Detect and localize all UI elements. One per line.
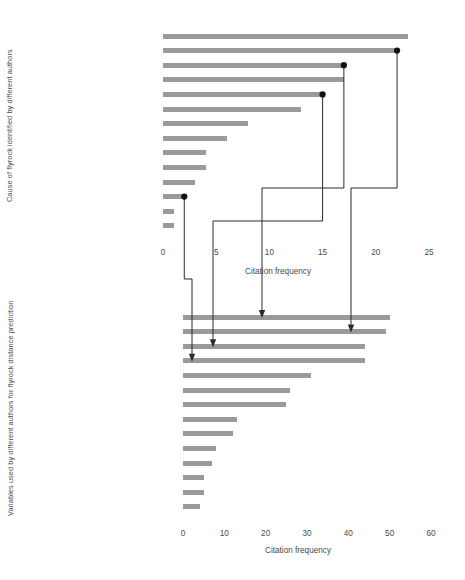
bar (183, 461, 212, 466)
x-tick-label: 5 (201, 249, 231, 257)
bar (163, 209, 174, 214)
bar (163, 63, 344, 68)
bar (183, 388, 290, 393)
x-tick-label: 25 (414, 249, 444, 257)
bar (183, 402, 286, 407)
bar (183, 373, 311, 378)
bar (183, 446, 216, 451)
x-tick-label: 30 (292, 530, 322, 538)
figure-canvas: Cause of flyrock identified by different… (0, 0, 465, 580)
chart-panel-bottom: Variables used by different authors for … (0, 290, 465, 580)
x-tick-label: 0 (148, 249, 178, 257)
bar (163, 34, 408, 39)
bar (163, 165, 206, 170)
y-axis-title-bottom: Variables used by different authors for … (6, 296, 32, 521)
x-tick-label: 15 (308, 249, 338, 257)
x-tick-label: 10 (209, 530, 239, 538)
bar (163, 107, 301, 112)
x-tick-label: 40 (333, 530, 363, 538)
bar (183, 490, 204, 495)
bar (163, 223, 174, 228)
x-tick-label: 60 (416, 530, 446, 538)
bar (183, 417, 237, 422)
bar (163, 180, 195, 185)
x-tick-label: 20 (361, 249, 391, 257)
x-tick-label: 10 (254, 249, 284, 257)
bar (183, 315, 390, 320)
x-axis-title-top: Citation frequency (178, 268, 378, 276)
y-axis-title-top: Cause of flyrock identified by different… (5, 18, 31, 233)
bar (183, 504, 200, 509)
bar (183, 358, 365, 363)
x-tick-label: 20 (251, 530, 281, 538)
bar (163, 121, 248, 126)
x-axis-title-bottom: Citation frequency (198, 547, 398, 555)
x-tick-label: 50 (375, 530, 405, 538)
bar (163, 194, 184, 199)
bar (183, 329, 386, 334)
bar (183, 431, 233, 436)
bar (163, 77, 344, 82)
bar (163, 48, 397, 53)
bar (183, 344, 365, 349)
bar (163, 92, 323, 97)
bar (163, 150, 206, 155)
bar (163, 136, 227, 141)
x-tick-label: 0 (168, 530, 198, 538)
bar (183, 475, 204, 480)
chart-panel-top: Cause of flyrock identified by different… (0, 0, 465, 290)
